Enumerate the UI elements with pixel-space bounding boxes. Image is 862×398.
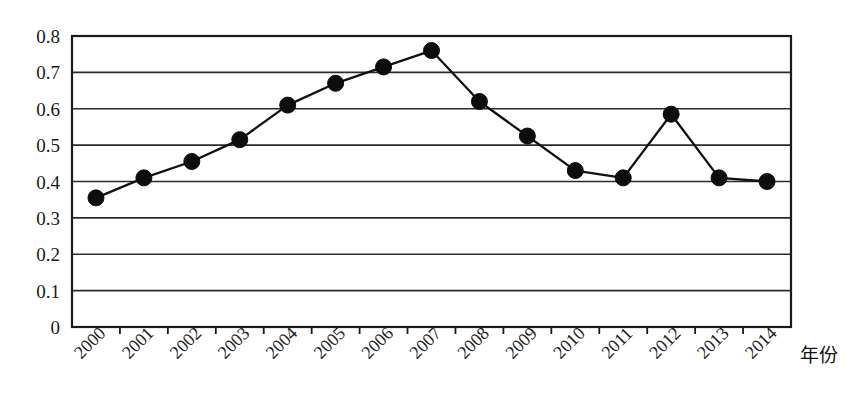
y-axis-tick-label: 0.7 bbox=[36, 62, 60, 83]
data-point-marker bbox=[567, 163, 583, 179]
y-axis-tick-label: 0.4 bbox=[36, 172, 60, 193]
data-point-marker bbox=[424, 43, 440, 59]
data-point-marker bbox=[471, 93, 487, 109]
data-point-marker bbox=[519, 128, 535, 144]
data-point-marker bbox=[663, 106, 679, 122]
y-axis-tick-label: 0.2 bbox=[36, 244, 60, 265]
y-axis-tick-label: 0.8 bbox=[36, 26, 60, 47]
data-point-marker bbox=[136, 170, 152, 186]
data-point-marker bbox=[376, 59, 392, 75]
y-axis-tick-label: 0 bbox=[51, 317, 61, 338]
data-point-marker bbox=[88, 190, 104, 206]
data-point-marker bbox=[232, 132, 248, 148]
chart-canvas: 00.10.20.30.40.50.60.70.8 20002001200220… bbox=[0, 0, 862, 398]
y-axis-tick-label: 0.5 bbox=[36, 135, 60, 156]
y-axis-tick-labels: 00.10.20.30.40.50.60.70.8 bbox=[36, 26, 60, 338]
data-point-marker bbox=[759, 174, 775, 190]
data-point-marker bbox=[328, 75, 344, 91]
data-point-marker bbox=[615, 170, 631, 186]
y-axis-tick-label: 0.3 bbox=[36, 208, 60, 229]
x-axis-title: 年份 bbox=[800, 345, 838, 366]
data-point-marker bbox=[711, 170, 727, 186]
data-point-marker bbox=[184, 153, 200, 169]
line-chart-figure: 00.10.20.30.40.50.60.70.8 20002001200220… bbox=[0, 0, 862, 398]
y-axis-tick-label: 0.6 bbox=[36, 99, 60, 120]
y-axis-tick-label: 0.1 bbox=[36, 281, 60, 302]
data-point-marker bbox=[280, 97, 296, 113]
